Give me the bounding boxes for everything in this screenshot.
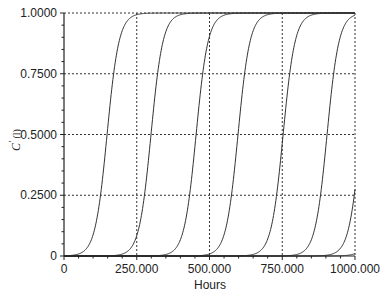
grid-lines xyxy=(64,13,355,256)
x-tick-label: 750.000 xyxy=(261,262,305,276)
y-tick-label: 0 xyxy=(50,249,57,263)
x-tick-label: 250.000 xyxy=(115,262,159,276)
y-tick-labels: 00.25000.50000.75001.0000 xyxy=(20,6,57,263)
breakthrough-curve xyxy=(64,15,355,256)
svg-text:C' (l): C' (l) xyxy=(7,129,23,151)
y-tick-label: 0.5000 xyxy=(20,128,57,142)
y-tick-label: 0.7500 xyxy=(20,67,57,81)
y-tick-label: 1.0000 xyxy=(20,6,57,20)
breakthrough-chart: 0250.000500.000750.0001000.000 00.25000.… xyxy=(0,0,386,296)
x-tick-labels: 0250.000500.000750.0001000.000 xyxy=(61,262,381,276)
x-axis-title: Hours xyxy=(194,278,226,292)
y-title-rest: (l) xyxy=(11,129,23,141)
x-tick-label: 1000.000 xyxy=(330,262,380,276)
x-tick-label: 0 xyxy=(61,262,68,276)
x-tick-label: 500.000 xyxy=(188,262,232,276)
y-tick-label: 0.2500 xyxy=(20,188,57,202)
tick-marks xyxy=(60,13,355,260)
y-axis-title: C' (l) xyxy=(7,129,23,151)
